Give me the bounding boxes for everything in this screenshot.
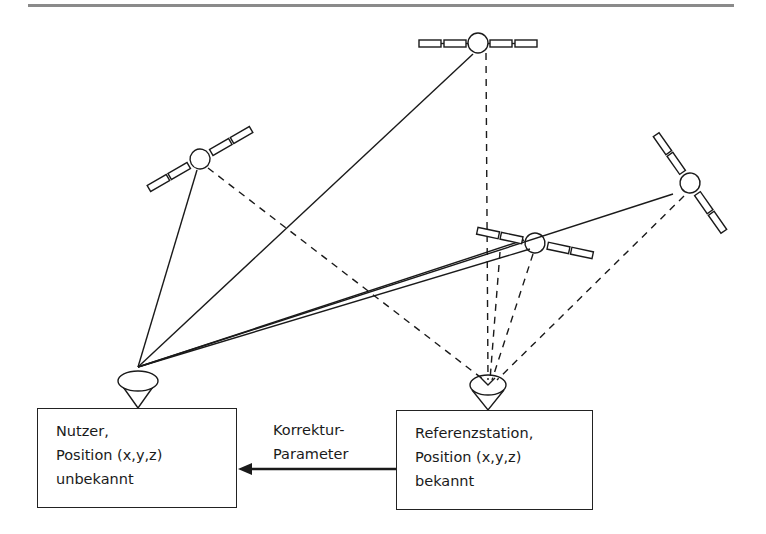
user-box-line-1: Nutzer, [56,419,236,443]
satellite-icon [475,221,595,265]
user-box-line-2: Position (x,y,z) [56,443,236,467]
user-box-line-3: unbekannt [56,467,236,491]
correction-label: Korrektur- Parameter [273,418,348,466]
satellite-icon [144,121,256,197]
satellite-icon [648,129,732,237]
correction-label-line-1: Korrektur- [273,418,348,442]
user-box: Nutzer, Position (x,y,z) unbekannt [37,408,237,508]
reference-box-line-2: Position (x,y,z) [415,445,592,469]
reference-box-line-1: Referenzstation, [415,421,592,445]
reference-signal-lines [208,53,684,380]
user-antenna-icon [118,371,158,408]
satellite-icon [419,33,537,53]
correction-label-line-2: Parameter [273,442,348,466]
reference-box: Referenzstation, Position (x,y,z) bekann… [396,410,593,510]
reference-antenna-icon [470,375,506,410]
reference-box-line-3: bekannt [415,469,592,493]
